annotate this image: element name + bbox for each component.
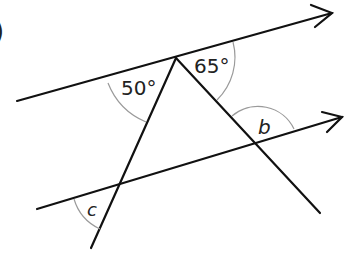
angle-diagram: ) 50° 65° b c bbox=[0, 0, 353, 254]
angle-50-label: 50° bbox=[121, 76, 156, 100]
angle-b-label: b bbox=[258, 115, 271, 139]
angle-c-label: c bbox=[87, 199, 97, 220]
top-parallel-line bbox=[17, 5, 332, 101]
angle-65-label: 65° bbox=[194, 54, 229, 78]
question-marker: ) bbox=[0, 16, 4, 46]
right-transversal bbox=[176, 58, 320, 213]
bottom-parallel-line bbox=[37, 112, 342, 209]
